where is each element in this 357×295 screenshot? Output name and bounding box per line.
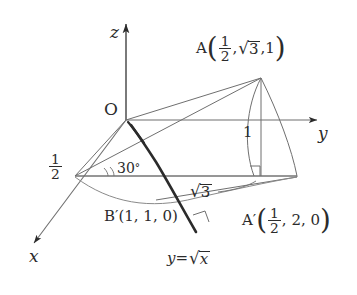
- point-Aprime-x-fraction: 1 2: [268, 206, 281, 235]
- right-angle-marker-Bprime: [193, 211, 209, 222]
- radical-sqrt3: √3: [189, 183, 212, 200]
- point-Aprime-name: A′: [242, 213, 256, 228]
- axis-label-y: y: [318, 125, 328, 142]
- figure-canvas: z y x O 1 2 30 ° 1 √3 A ( 1 2: [0, 0, 357, 295]
- edge-A-to-right-corner: [261, 78, 297, 176]
- curve-equation-lhs: y: [167, 251, 175, 266]
- edge-half-to-A: [75, 78, 261, 176]
- angle-label-30-degrees: 30 °: [117, 161, 140, 175]
- point-A-x-numerator: 1: [219, 34, 232, 48]
- origin-label: O: [104, 101, 118, 118]
- point-label-B-prime: B′(1, 1, 0): [104, 209, 178, 224]
- curve-equation-row: y = √x: [167, 250, 210, 267]
- paren-open: (: [207, 39, 218, 56]
- axis-label-z: z: [110, 24, 119, 41]
- axis-label-x: x: [29, 248, 39, 265]
- fraction-numerator: 1: [49, 152, 62, 166]
- length-sqrt3-label: √3: [189, 183, 212, 200]
- point-Aprime-x-denominator: 2: [268, 220, 281, 235]
- paren-close-aprime: ): [320, 211, 331, 228]
- curve-radical-body: x: [199, 251, 210, 267]
- angle-value: 30: [117, 161, 135, 175]
- point-A-x-denominator: 2: [219, 48, 232, 63]
- point-A-x-fraction: 1 2: [219, 34, 232, 63]
- curve-equation-label: y = √x: [167, 250, 210, 267]
- point-A-y-radical-body: 3: [248, 41, 261, 57]
- paren-open-aprime: (: [256, 211, 267, 228]
- point-Aprime-row: A′ ( 1 2 , 2, 0 ): [242, 206, 331, 235]
- edge-Bprime-to-Aprime: [75, 176, 297, 200]
- point-label-A-prime: A′ ( 1 2 , 2, 0 ): [242, 206, 331, 235]
- point-A-row: A ( 1 2 , √3 , 1 ): [196, 34, 286, 63]
- curve-equation-equals: =: [175, 251, 188, 266]
- angle-value-row: 30 °: [117, 161, 140, 175]
- fraction-one-half: 1 2: [49, 152, 62, 181]
- fraction-denominator: 2: [49, 166, 62, 181]
- point-A-name: A: [196, 41, 207, 56]
- point-Aprime-x-numerator: 1: [268, 206, 281, 220]
- point-A-z: 1: [265, 41, 275, 56]
- point-Aprime-rest: , 2, 0: [282, 213, 320, 228]
- x-intercept-half-label: 1 2: [48, 152, 63, 181]
- tick-near-origin: [128, 122, 144, 143]
- angle-arc-marker-30: [104, 167, 114, 176]
- point-A-y-radical: √3: [237, 40, 260, 57]
- radical-body: 3: [200, 184, 213, 200]
- paren-close: ): [275, 39, 286, 56]
- degree-symbol: °: [135, 163, 140, 174]
- height-one-label: 1: [243, 125, 253, 140]
- point-label-A: A ( 1 2 , √3 , 1 ): [196, 34, 286, 63]
- curve-equation-radical: √x: [188, 250, 210, 267]
